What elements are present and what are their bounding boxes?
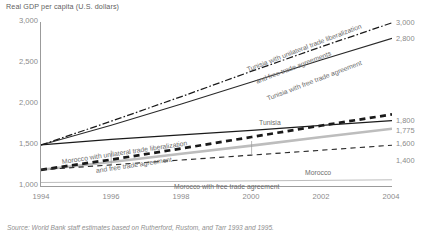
annotation-tunisia: Tunisia (259, 119, 281, 126)
source-note: Source: World Bank staff estimates based… (7, 224, 274, 231)
end-value-label-1775: 1,775 (396, 126, 415, 135)
series-line-morocco-unilateral-and-free-trade-agreement (41, 114, 392, 169)
x-tick-label-1996: 1996 (103, 192, 120, 201)
plot-area (41, 22, 392, 186)
end-value-label-2800: 2,800 (396, 34, 415, 43)
series-canvas (41, 22, 392, 186)
y-axis-tick-labels: 3,000 2,500 2,000 1,500 1,000 (0, 22, 38, 186)
end-value-label-3000: 3,000 (396, 18, 415, 27)
y-tick-label-1000: 1,000 (2, 180, 38, 189)
y-tick-label-3000: 3,000 (2, 16, 38, 25)
series-line-morocco-free-trade-agreement (41, 129, 392, 170)
x-tick-label-2004: 2004 (383, 192, 400, 201)
y-tick-label-2500: 2,500 (2, 57, 38, 66)
series-line-tunisia (41, 121, 392, 145)
x-tick-label-1998: 1998 (173, 192, 190, 201)
annotation-morocco: Morocco (305, 169, 331, 176)
end-value-label-1400: 1,400 (396, 156, 415, 165)
chart-title: Real GDP per capita (U.S. dollars) (6, 2, 119, 11)
end-value-label-1600: 1,600 (396, 139, 415, 148)
y-tick-label-1500: 1,500 (2, 139, 38, 148)
x-tick-label-2000: 2000 (243, 192, 260, 201)
series-line-tunisia-unilateral-and-free-trade-agreements (41, 23, 392, 145)
series-line-tunisia-free-trade-agreement (41, 38, 392, 145)
x-tick-label-1994: 1994 (33, 192, 50, 201)
annotation-morocco-free-trade-agreement: Morocco with free trade agreement (174, 183, 279, 190)
figure-container: Real GDP per capita (U.S. dollars) 3,000… (0, 0, 427, 241)
end-value-label-1800: 1,800 (396, 116, 415, 125)
x-tick-label-2002: 2002 (313, 192, 330, 201)
y-tick-label-2000: 2,000 (2, 98, 38, 107)
